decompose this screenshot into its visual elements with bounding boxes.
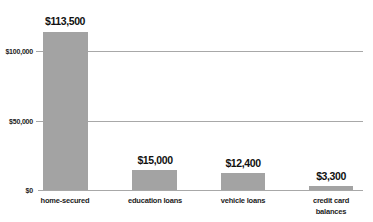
value-label: $113,500 xyxy=(45,15,85,27)
category-label-line: education loans xyxy=(128,196,182,205)
category-label-line: balances xyxy=(296,206,366,217)
bar-chart: $100,000 $50,000 $0 $113,500 $15,000 $12… xyxy=(0,0,373,222)
y-tick-label: $100,000 xyxy=(0,48,33,55)
category-label: vehicle loans xyxy=(208,195,278,206)
category-label-line: credit card xyxy=(296,195,366,206)
bar-home-secured xyxy=(43,32,88,190)
value-label: $15,000 xyxy=(137,154,172,166)
bar-vehicle-loans xyxy=(221,173,265,190)
category-label-line: home-secured xyxy=(41,196,90,205)
category-label: credit card balances xyxy=(296,195,366,217)
y-tick-label: $0 xyxy=(0,187,33,194)
value-label: $12,400 xyxy=(225,157,260,169)
x-axis-baseline xyxy=(38,190,363,191)
bar-education-loans xyxy=(132,170,177,190)
y-tick-label: $50,000 xyxy=(0,118,33,125)
category-label: education loans xyxy=(120,195,190,206)
category-label-line: vehicle loans xyxy=(221,196,266,205)
category-label: home-secured xyxy=(30,195,100,206)
value-label: $3,300 xyxy=(316,170,346,182)
